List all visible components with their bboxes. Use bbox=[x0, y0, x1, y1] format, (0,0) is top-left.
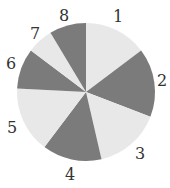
spinner-diagram: 1 2 3 4 5 6 7 8 bbox=[0, 0, 170, 188]
spinner-sectors bbox=[17, 23, 155, 161]
sector-label-1: 1 bbox=[113, 7, 123, 26]
sector-label-3: 3 bbox=[135, 144, 145, 163]
sector-label-5: 5 bbox=[7, 118, 17, 137]
sector-label-8: 8 bbox=[59, 6, 69, 25]
sector-label-6: 6 bbox=[6, 54, 16, 73]
sector-label-7: 7 bbox=[30, 24, 40, 43]
sector-label-2: 2 bbox=[157, 71, 167, 90]
sector-label-4: 4 bbox=[65, 165, 75, 184]
